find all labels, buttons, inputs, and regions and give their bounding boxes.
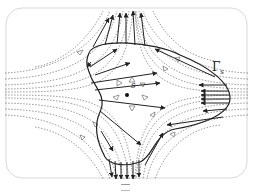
diagram-frame: [5, 7, 248, 179]
contour-gamma-s: [87, 43, 230, 165]
streamlines-left: [5, 11, 133, 179]
streamlines-right: [135, 11, 248, 179]
caption-fragment: [121, 184, 130, 191]
center-point-label: s: [131, 80, 136, 90]
flow-diagram: [5, 7, 248, 179]
center-point-s: [125, 93, 129, 97]
contour-label: Γs: [212, 60, 224, 76]
boundary-vectors: [87, 11, 230, 179]
